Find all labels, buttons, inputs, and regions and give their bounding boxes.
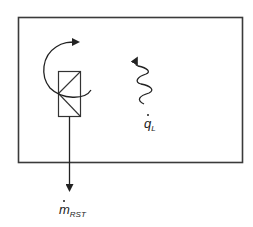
mass-flow-symbol: m xyxy=(59,203,70,216)
heat-flow-wavy-arrow-icon xyxy=(135,60,151,104)
mass-flow-label: mRST xyxy=(59,203,86,219)
mass-flow-subscript: RST xyxy=(70,210,86,219)
heat-flow-symbol: q xyxy=(144,117,151,130)
rotation-arrow-icon xyxy=(44,42,91,97)
diagram-canvas xyxy=(0,0,253,227)
valve-icon xyxy=(59,72,81,117)
heat-flow-label: qL xyxy=(144,117,156,133)
heat-flow-subscript: L xyxy=(151,124,155,133)
